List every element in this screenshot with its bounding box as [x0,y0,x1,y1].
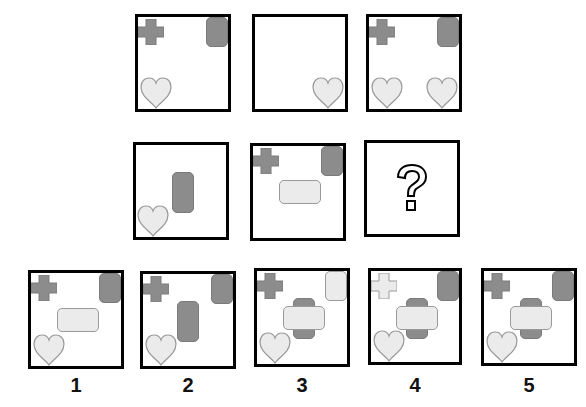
heart-icon [140,77,172,109]
option-label-5: 5 [509,374,549,397]
cross-icon [138,19,164,45]
cross-icon [257,273,283,299]
heart-icon [312,77,344,109]
dark-vertical-rect [177,301,199,342]
light-horizontal-rect [57,308,99,332]
heart-icon [486,331,518,363]
option-label-1: 1 [56,374,96,397]
dark-rect-top-right [437,17,459,47]
cross-icon [253,148,279,174]
heart-icon [426,77,458,109]
answer-option-3[interactable] [254,268,350,367]
heart-icon [145,334,177,366]
dark-rect-top-right [99,273,121,303]
answer-option-1[interactable] [28,270,124,369]
cross-icon [31,275,57,301]
light-horizontal-rect [279,180,321,204]
light-rect-top-right [325,271,347,301]
matrix-cell-r2c1 [133,142,229,240]
heart-icon [371,77,403,109]
heart-icon [137,205,169,237]
cross-icon [143,276,169,302]
light-horizontal-rect [396,306,438,330]
matrix-cell-r2c3-question [364,140,460,237]
dark-rect-top-right [206,17,228,47]
dark-rect-top-right [321,146,343,176]
cross-icon [484,273,510,299]
light-horizontal-rect [510,306,552,330]
cross-icon [369,19,395,45]
answer-option-5[interactable] [481,268,577,366]
option-label-2: 2 [168,374,208,397]
option-label-4: 4 [395,374,435,397]
question-mark-icon [394,163,430,215]
heart-icon [33,334,65,366]
heart-icon [373,330,405,362]
answer-option-2[interactable] [140,271,236,369]
option-label-3: 3 [282,374,322,397]
matrix-cell-r1c3 [366,14,462,112]
cross-icon-light [371,273,397,299]
answer-option-4[interactable] [368,268,462,365]
heart-icon [259,332,291,364]
matrix-cell-r2c2 [250,143,346,241]
dark-rect-top-right [437,271,459,301]
matrix-cell-r1c1 [135,14,231,112]
matrix-cell-r1c2 [252,14,348,112]
dark-rect-top-right [211,274,233,304]
dark-rect-top-right [552,271,574,301]
light-horizontal-rect [283,306,325,330]
dark-vertical-rect [172,172,194,213]
